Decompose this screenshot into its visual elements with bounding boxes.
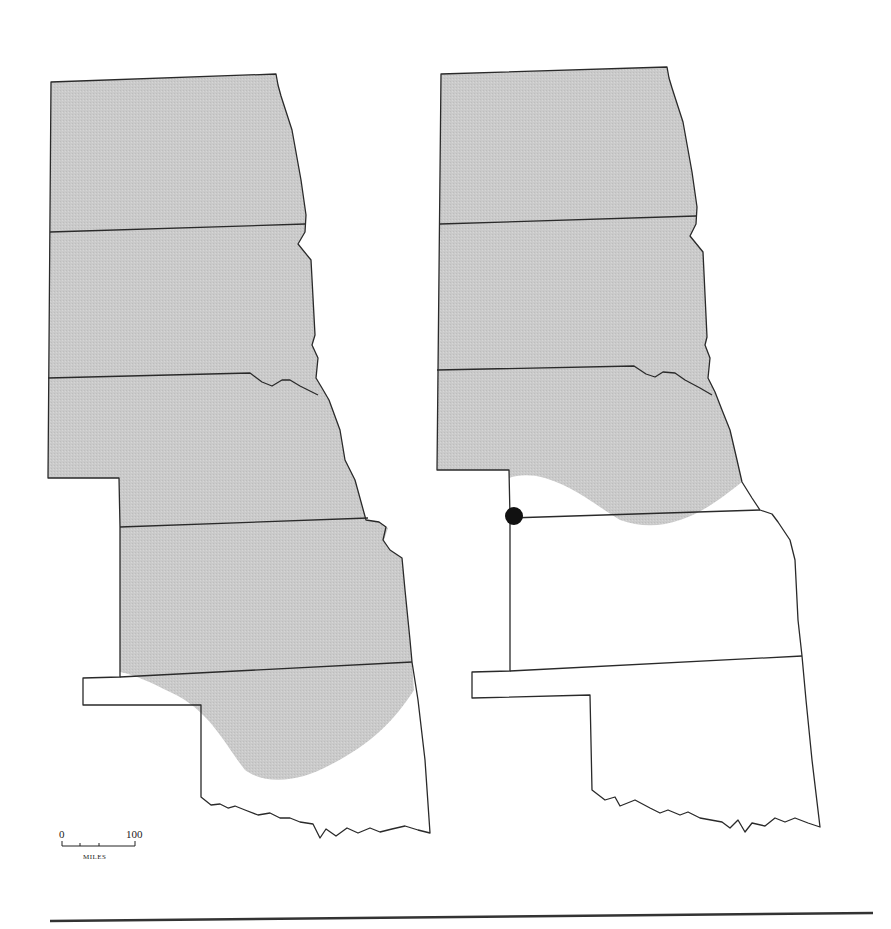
scale-end-label: 100 — [126, 828, 143, 840]
scale-bar-line — [62, 841, 135, 846]
scale-unit-label: MILES — [83, 853, 107, 861]
range-map-figure: 0 100 MILES — [0, 0, 891, 929]
right-map — [437, 67, 820, 832]
left-map — [48, 74, 430, 838]
right-ks-ok-border — [510, 656, 802, 671]
bottom-rule — [50, 913, 873, 921]
left-range-shading — [48, 74, 414, 780]
scale-start-label: 0 — [59, 828, 65, 840]
locality-dot — [505, 507, 523, 525]
scale-bar: 0 100 MILES — [59, 828, 143, 861]
right-range-shading — [437, 67, 742, 525]
